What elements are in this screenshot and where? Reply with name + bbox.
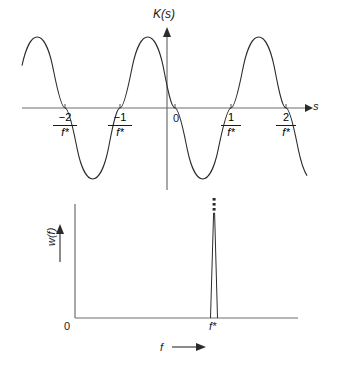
wf-axis-direction-arrow <box>56 224 64 262</box>
bottom-panel-origin-label: 0 <box>64 321 70 332</box>
bottom-panel-x-axis-label: f <box>160 342 163 353</box>
f-axis-direction-arrow <box>172 343 206 351</box>
spike-ellipsis-dots <box>213 198 216 211</box>
figure-container: K(s) s 0 −2 f* −1 f* 1 f* 2 f* <box>0 0 339 365</box>
bottom-panel-plot <box>0 0 339 365</box>
bottom-panel-peak-label: f* <box>209 321 216 332</box>
bottom-panel-y-axis-label: w(f) <box>46 228 57 246</box>
delta-spike <box>211 213 218 318</box>
